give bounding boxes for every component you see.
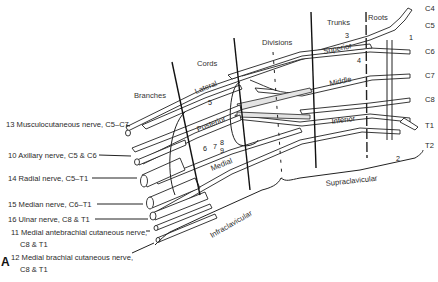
branch-number-7: 7 xyxy=(213,142,217,151)
section-label-cords: Cords xyxy=(197,59,217,68)
root-c7: C7 xyxy=(425,71,435,80)
branch-number-2: 2 xyxy=(396,154,400,163)
branch-label-musculocutaneous: 13 Musculocutaneous nerve, C5–C7 xyxy=(6,120,129,129)
musculocutaneous-end xyxy=(126,130,131,136)
branch-number-5: 5 xyxy=(208,98,212,107)
leader-axillary xyxy=(99,155,131,156)
branch-label-radial: 14 Radial nerve, C5–T1 xyxy=(8,174,88,183)
section-label-divisions: Divisions xyxy=(262,38,293,47)
branch-label-ulnar: 16 Ulnar nerve, C8 & T1 xyxy=(8,215,90,224)
panel-label: A xyxy=(1,255,10,269)
medial-loop xyxy=(170,112,185,195)
branch-number-3: 3 xyxy=(345,31,349,40)
root-t1: T1 xyxy=(425,121,434,130)
root-c5: C5 xyxy=(425,21,435,30)
branch-label-medial-antebrachial-roots: C8 & T1 xyxy=(20,240,48,249)
root-t2: T2 xyxy=(425,141,434,150)
branch-label-medial-brachial: 12 Medial brachial cutaneous nerve, xyxy=(11,253,133,262)
root-c8: C8 xyxy=(425,95,435,104)
branch-number-4: 4 xyxy=(357,56,361,65)
radial-tube xyxy=(142,158,185,187)
mac-end xyxy=(154,226,158,231)
branch-number-9: 9 xyxy=(220,146,224,155)
cord-lateral: Lateral xyxy=(193,79,218,96)
trunk-inferior: Inferior xyxy=(331,114,356,126)
brachial-plexus-diagram: Branches Cords Divisions Trunks Roots C4… xyxy=(0,0,438,282)
axillary-end xyxy=(135,159,140,165)
radial-end xyxy=(141,175,148,187)
root-c6: C6 xyxy=(425,47,435,56)
branch-label-median: 15 Median nerve, C6–T1 xyxy=(8,200,92,209)
root-c4: C4 xyxy=(425,4,435,13)
section-label-roots: Roots xyxy=(368,13,388,22)
branch-label-medial-brachial-roots: C8 & T1 xyxy=(20,265,48,274)
upper-long-band xyxy=(126,8,412,131)
c8-band xyxy=(300,98,410,114)
region-supraclavicular: Supraclavicular xyxy=(325,174,378,188)
section-label-trunks: Trunks xyxy=(327,18,350,27)
trunks-roots-line xyxy=(366,12,367,158)
median-end xyxy=(147,197,154,209)
branch-label-medial-antebrachial: 11 Medial antebrachial cutaneous nerve, xyxy=(11,228,147,237)
ulnar-end xyxy=(150,212,156,220)
leader-mbc xyxy=(132,243,154,253)
branch-number-6: 6 xyxy=(203,144,207,153)
branch-label-axillary: 10 Axillary nerve, C5 & C6 xyxy=(8,151,97,160)
section-label-branches: Branches xyxy=(134,91,166,100)
branch-number-1: 1 xyxy=(409,33,413,42)
region-infraclavicular: Infraclavicular xyxy=(209,208,254,239)
